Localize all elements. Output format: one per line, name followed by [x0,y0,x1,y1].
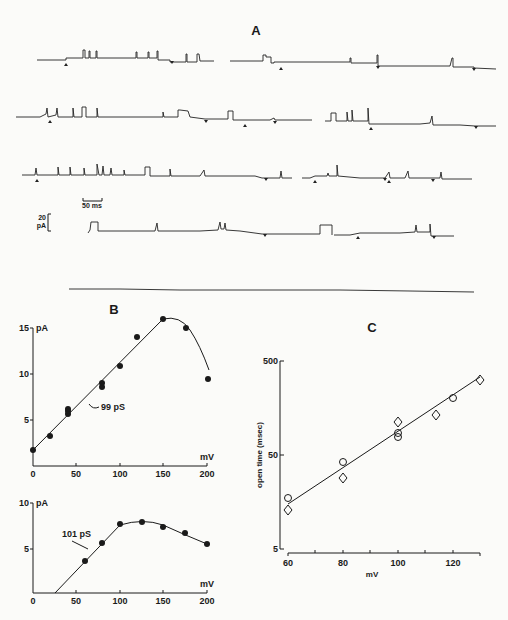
trace-row3-left [22,164,292,178]
chart-c: 500 50 5 60 80 100 120 mV open time (mse… [255,356,484,579]
svg-text:50: 50 [268,450,278,460]
svg-text:150: 150 [155,469,170,479]
current-traces [16,50,496,292]
chart-c-y-axis [280,361,284,549]
svg-text:100: 100 [390,558,405,568]
svg-text:80: 80 [338,558,348,568]
chart-c-x-axis [288,550,480,556]
trace-row2-right [325,108,496,126]
current-scale-unit: pA [37,222,46,230]
chart-c-fit [288,377,480,504]
chart-b-upper-fit [33,318,209,450]
chart-b-lower-axes [33,503,207,593]
figure-canvas: A 50 ms 20 pA B [0,0,508,620]
svg-text:open time (msec): open time (msec) [255,422,264,488]
svg-text:mV: mV [200,579,214,589]
svg-text:60: 60 [283,558,293,568]
chart-b-upper-annotation: 99 pS [101,402,125,412]
svg-text:5: 5 [24,544,29,554]
svg-text:0: 0 [30,596,35,606]
svg-text:100: 100 [112,469,127,479]
chart-b-lower-points [82,519,210,564]
current-scale-value: 20 [38,214,46,221]
chart-c-diamond-points [284,375,484,515]
chart-b-lower: 10 pA 5 0 50 100 150 200 mV 101 pS [19,498,215,606]
svg-text:120: 120 [445,558,460,568]
chart-b-upper: 15 pA 10 5 0 50 100 150 200 mV 99 pS [19,316,215,479]
trace-row1-right [230,55,496,69]
trace-row1-left [37,50,214,62]
trace-row3-right [302,165,472,179]
trace-row4-right [334,224,454,236]
trace-row2-left [16,107,312,120]
panel-b-label: B [109,302,118,317]
svg-text:pA: pA [36,498,48,508]
svg-text:200: 200 [199,469,214,479]
chart-b-upper-annotation-pointer [89,404,99,408]
current-scale-bar [48,214,51,231]
time-scale-bar [83,198,102,201]
svg-text:150: 150 [155,596,170,606]
svg-text:pA: pA [36,323,48,333]
panel-a-label: A [251,23,261,38]
panel-c-label: C [367,320,377,335]
trace-closed-baseline [69,289,474,292]
scale-bars: 50 ms 20 pA [37,198,102,231]
chart-c-circle-points [285,395,457,502]
chart-b-lower-annotation-pointer [72,541,88,549]
svg-text:50: 50 [71,596,81,606]
svg-text:10: 10 [19,498,29,508]
svg-text:5: 5 [24,415,29,425]
time-scale-label: 50 ms [82,202,102,209]
svg-text:mV: mV [366,570,379,579]
transition-markers [35,61,478,239]
svg-text:mV: mV [200,452,214,462]
chart-b-upper-axes [33,328,207,466]
svg-text:15: 15 [19,323,29,333]
svg-text:50: 50 [71,469,81,479]
chart-b-upper-points [30,316,211,453]
trace-row4-left [88,222,332,235]
svg-text:10: 10 [19,369,29,379]
svg-text:500: 500 [263,356,278,366]
svg-text:100: 100 [112,596,127,606]
svg-text:200: 200 [199,596,214,606]
svg-text:0: 0 [30,469,35,479]
chart-b-lower-annotation: 101 pS [62,529,91,539]
svg-text:5: 5 [273,544,278,554]
